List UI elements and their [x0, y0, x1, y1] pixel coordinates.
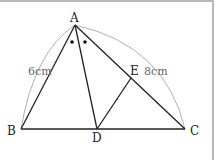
label-d: D — [92, 131, 102, 145]
measure-ac: 8cm — [144, 65, 168, 78]
label-b: B — [7, 124, 16, 138]
label-e: E — [130, 64, 139, 78]
angle-mark-dac — [83, 40, 87, 44]
label-a: A — [69, 11, 79, 25]
geometry-diagram: A B C D E 6cm 8cm — [0, 0, 218, 160]
segment-de — [97, 78, 131, 129]
angle-mark-bad — [70, 40, 74, 44]
measure-ab: 6cm — [28, 65, 52, 78]
label-c: C — [190, 124, 199, 138]
triangle-figure: A B C D E 6cm 8cm — [0, 0, 218, 160]
